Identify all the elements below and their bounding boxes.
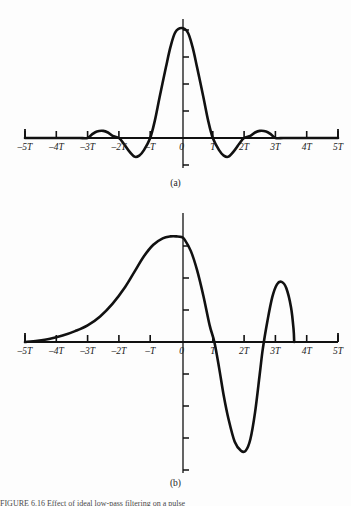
y-ticks-b — [183, 246, 189, 470]
figure-caption: FIGURE 6.16 Effect of ideal low-pass fil… — [0, 499, 351, 506]
x-ticks-b — [25, 333, 338, 342]
plot-b-svg — [0, 205, 351, 485]
x-tick-label-panel-b-10: 5T — [318, 347, 351, 357]
curve-filtered-pulse-b — [25, 236, 294, 452]
chart-panel-a: –5T–4T–3T–2T–T0T2T3T4T5T (a) — [0, 0, 351, 215]
plot-b-axes — [25, 213, 338, 473]
panel-a-caption: (a) — [0, 178, 351, 188]
x-ticks-a — [25, 129, 338, 138]
figure-container: –5T–4T–3T–2T–T0T2T3T4T5T (a) –5T–4T–3T–2… — [0, 0, 351, 506]
x-tick-label-panel-a-10: 5T — [318, 143, 351, 153]
panel-b-caption: (b) — [0, 478, 351, 488]
chart-panel-b: –5T–4T–3T–2T–T0T2T3T4T5T — [0, 205, 351, 465]
